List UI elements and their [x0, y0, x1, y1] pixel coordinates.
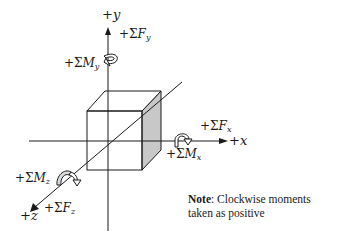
cube	[87, 91, 161, 170]
force-y-label: +ΣFy	[119, 28, 150, 40]
force-z-symbol: F	[63, 201, 71, 215]
force-z-label: +ΣFz	[44, 202, 75, 214]
z-axis-label: +z	[20, 210, 38, 222]
arrowhead-icon-x	[219, 138, 228, 144]
moment-x-prefix: +Σ	[166, 147, 185, 161]
moment-z-label: +ΣMz	[15, 172, 50, 184]
note-line-1: Note: Clockwise moments	[188, 192, 311, 206]
moment-z-subscript: z	[46, 177, 50, 186]
force-z-subscript: z	[71, 207, 75, 216]
note-title: Note	[188, 193, 211, 205]
moment-z-symbol: M	[34, 171, 46, 185]
note-line-2: taken as positive	[188, 206, 311, 220]
force-x-symbol: F	[219, 119, 227, 133]
x-axis-label: +x	[229, 135, 247, 147]
arrowhead-icon-y	[105, 27, 111, 35]
note-text-1: : Clockwise moments	[211, 193, 311, 205]
force-x-subscript: x	[227, 125, 232, 134]
force-y-prefix: +Σ	[119, 27, 138, 41]
force-x-label: +ΣFx	[200, 120, 231, 132]
curved-arrow-icon-y	[104, 54, 117, 66]
sign-convention-note: Note: Clockwise moments taken as positiv…	[188, 192, 311, 220]
moment-x-label: +ΣMx	[166, 148, 201, 160]
force-y-symbol: F	[138, 27, 146, 41]
z-axis-label-sign: +	[20, 208, 31, 223]
curved-arrow-icon-x	[175, 134, 192, 147]
z-axis-label-var: z	[31, 208, 38, 223]
moment-y-subscript: y	[95, 62, 100, 71]
force-y-subscript: y	[146, 33, 151, 42]
moment-y-label: +ΣMy	[64, 57, 99, 69]
free-body-diagram: +y +x +z +ΣFy +ΣFx +ΣFz +ΣMy +ΣMx +ΣMz N…	[0, 0, 339, 241]
x-axis-label-var: x	[240, 133, 247, 148]
moment-y-symbol: M	[83, 56, 95, 70]
y-axis-label: +y	[102, 9, 120, 21]
y-axis-label-var: y	[113, 7, 120, 22]
moment-x-subscript: x	[197, 153, 202, 162]
x-axis-label-sign: +	[229, 133, 240, 148]
moment-z-prefix: +Σ	[15, 171, 34, 185]
y-axis-label-sign: +	[102, 7, 113, 22]
force-z-prefix: +Σ	[44, 201, 63, 215]
moment-y-prefix: +Σ	[64, 56, 83, 70]
moment-x-symbol: M	[185, 147, 197, 161]
force-x-prefix: +Σ	[200, 119, 219, 133]
